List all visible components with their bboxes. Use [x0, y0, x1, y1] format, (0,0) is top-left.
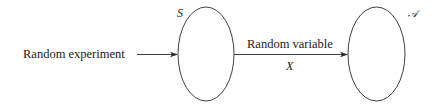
sample-space-label: S: [177, 6, 183, 20]
random-experiment-label: Random experiment: [23, 47, 125, 61]
range-set-ellipse: [348, 7, 405, 101]
mapping-arrow: [234, 52, 348, 57]
random-variable-label: Random variable: [247, 37, 333, 51]
sample-space-ellipse: [178, 7, 234, 101]
random-variable-diagram: Random experiment S Random variable X 𝒜: [0, 0, 431, 107]
random-variable-symbol: X: [285, 59, 294, 73]
input-arrow: [137, 52, 178, 57]
range-set-label: 𝒜: [408, 8, 421, 19]
